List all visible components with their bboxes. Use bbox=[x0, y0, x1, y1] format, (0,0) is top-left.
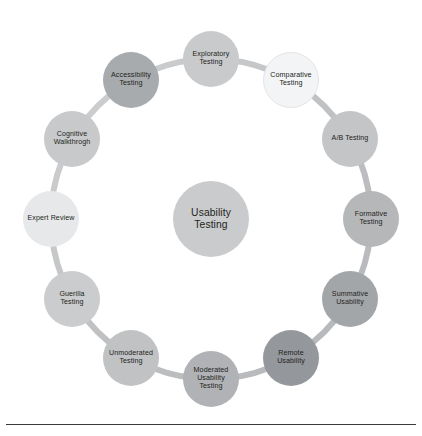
spoke-node-remote-usability[interactable]: Remote Usability bbox=[263, 330, 319, 386]
spoke-node-unmoderated-testing[interactable]: Unmoderated Testing bbox=[103, 330, 159, 386]
spoke-node-label: A/B Testing bbox=[330, 135, 371, 143]
spoke-node-moderated-usability-testing[interactable]: Moderated Usability Testing bbox=[183, 351, 239, 407]
spoke-node-label: Cognitive Walkthrogh bbox=[52, 131, 93, 147]
spoke-node-ab-testing[interactable]: A/B Testing bbox=[322, 111, 378, 167]
spoke-node-label: Unmoderated Testing bbox=[107, 350, 155, 366]
spoke-node-accessibility-testing[interactable]: Accessibility Testing bbox=[103, 52, 159, 108]
spoke-node-formative-testing[interactable]: Formative Testing bbox=[343, 191, 399, 247]
spoke-node-label: Guerilla Testing bbox=[57, 291, 86, 307]
spoke-node-label: Comparative Testing bbox=[268, 72, 313, 88]
spoke-node-guerilla-testing[interactable]: Guerilla Testing bbox=[44, 271, 100, 327]
spoke-node-summative-usability[interactable]: Summative Usability bbox=[322, 271, 378, 327]
spoke-node-label: Moderated Usability Testing bbox=[192, 367, 231, 391]
spoke-node-exploratory-testing[interactable]: Exploratory Testing bbox=[183, 31, 239, 87]
hub-node-label: Usability Testing bbox=[189, 207, 233, 230]
spoke-node-label: Exploratory Testing bbox=[191, 51, 232, 67]
footer-divider bbox=[6, 424, 416, 425]
spoke-node-cognitive-walkthrogh[interactable]: Cognitive Walkthrogh bbox=[44, 111, 100, 167]
spoke-node-label: Summative Usability bbox=[330, 291, 370, 307]
spoke-node-label: Formative Testing bbox=[353, 211, 389, 227]
hub-node-usability-testing[interactable]: Usability Testing bbox=[173, 181, 249, 257]
spoke-node-label: Accessibility Testing bbox=[109, 72, 153, 88]
spoke-node-comparative-testing[interactable]: Comparative Testing bbox=[263, 52, 319, 108]
spoke-node-label: Remote Usability bbox=[275, 350, 307, 366]
spoke-node-label: Expert Review bbox=[25, 215, 76, 223]
usability-testing-circle-diagram: Usability Testing Exploratory TestingCom… bbox=[0, 0, 422, 436]
spoke-node-expert-review[interactable]: Expert Review bbox=[23, 191, 79, 247]
